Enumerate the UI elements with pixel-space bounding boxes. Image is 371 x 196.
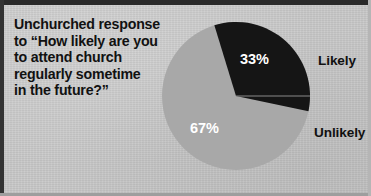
slice-value-likely: 33% (240, 51, 269, 67)
frame-border-top (0, 0, 371, 5)
pie-chart-figure: Unchurched response to “How likely are y… (0, 0, 371, 196)
legend-label-unlikely: Unlikely (314, 125, 365, 140)
frame-border-left (0, 0, 4, 196)
frame-border-bottom (0, 193, 371, 196)
pie-graphic (161, 21, 311, 171)
slice-value-unlikely: 67% (190, 120, 219, 136)
legend-label-likely: Likely (318, 53, 356, 68)
pie-svg (161, 21, 311, 171)
chart-caption: Unchurched response to “How likely are y… (14, 16, 174, 99)
